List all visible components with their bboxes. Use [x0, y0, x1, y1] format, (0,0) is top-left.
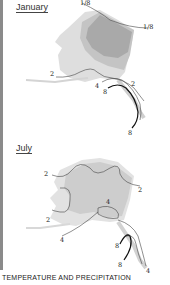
- contour-label: 8: [128, 129, 132, 137]
- contour-label: 2: [44, 170, 48, 178]
- contour-label: 4: [60, 236, 64, 244]
- panhandle-coast: [118, 222, 146, 268]
- contour-label: 4: [95, 82, 99, 90]
- july-precipitation-map: 2 2 2 4 4 8 8 4: [0, 140, 170, 275]
- aleutian-chain: [26, 224, 70, 228]
- contour-label: 1/8: [80, 0, 90, 7]
- page-caption: TEMPERATURE AND PRECIPITATION: [2, 274, 131, 281]
- contour-label: 8: [118, 261, 122, 269]
- contour-label: 2: [46, 216, 50, 224]
- contour-label: 2: [50, 70, 54, 78]
- contour-label: 8: [115, 242, 119, 250]
- january-precipitation-map: 1/8 1/8 2 2 4 8 8: [0, 0, 170, 140]
- contour-label: 2: [138, 186, 142, 194]
- contour-label: 8: [103, 88, 107, 96]
- contour-label: 2: [131, 80, 135, 88]
- contour-label: 1/8: [143, 23, 153, 31]
- contour-label: 4: [146, 267, 150, 275]
- aleutian-chain: [26, 78, 88, 82]
- contour-label: 4: [106, 198, 110, 206]
